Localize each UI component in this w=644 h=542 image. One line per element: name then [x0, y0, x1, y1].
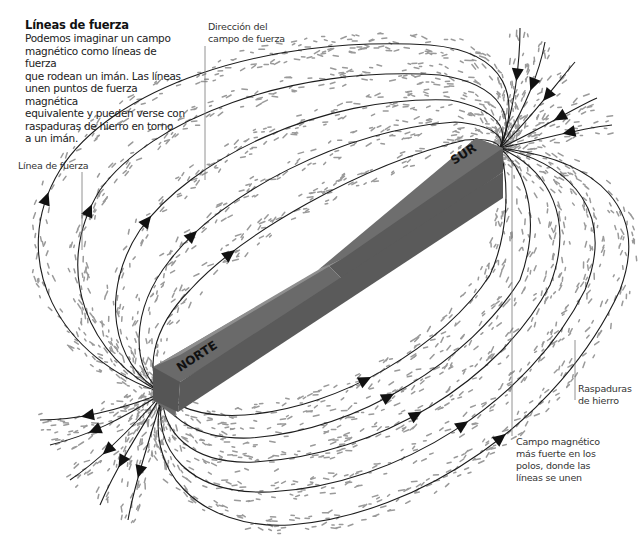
intro-body: Podemos imaginar un campo magnético como… — [25, 32, 185, 145]
label-field-line: Línea de fuerza — [18, 160, 88, 172]
intro-title: Líneas de fuerza — [25, 18, 185, 32]
label-iron-filings: Raspaduras de hierro — [578, 383, 632, 407]
magnet-side-face — [178, 172, 503, 412]
intro-text-block: Líneas de fuerza Podemos imaginar un cam… — [25, 18, 185, 145]
bar-magnet: NORTE SUR — [153, 138, 503, 417]
label-strong-field: Campo magnético más fuerte en los polos,… — [516, 436, 600, 484]
label-field-direction: Dirección del campo de fuerza — [208, 21, 285, 45]
